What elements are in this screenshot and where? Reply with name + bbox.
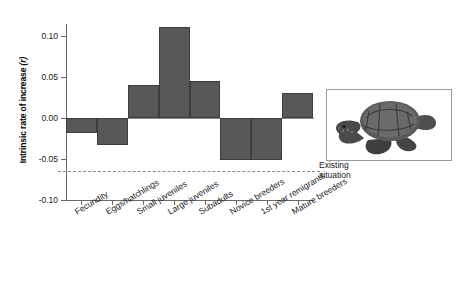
plot-area: 0.100.050.00-0.05-0.10 Existing situatio…: [66, 24, 313, 200]
y-tick-label: -0.05: [39, 154, 58, 164]
bar: [128, 85, 159, 118]
y-tick-label: 0.10: [41, 31, 58, 41]
y-tick-label: -0.10: [39, 195, 58, 205]
y-axis-line: [66, 24, 67, 200]
turtle-inset-box: [326, 89, 452, 161]
bar: [282, 93, 313, 118]
y-tick-label: 0.00: [41, 113, 58, 123]
existing-situation-label-line1: Existing: [319, 160, 351, 170]
y-tick: [61, 200, 66, 201]
bar: [190, 81, 221, 118]
bar: [66, 118, 97, 133]
sea-turtle-icon: [327, 90, 449, 158]
y-tick: [61, 36, 66, 37]
y-tick-label: 0.05: [41, 72, 58, 82]
figure-panel: Intrinsic rate of increase (r) 0.100.050…: [0, 0, 458, 286]
y-tick: [61, 159, 66, 160]
y-axis-title-symbol: (r): [18, 57, 28, 66]
y-axis-title-text: Intrinsic rate of increase: [18, 68, 28, 164]
bar: [251, 118, 282, 160]
y-tick: [61, 77, 66, 78]
bar: [97, 118, 128, 145]
existing-situation-line: [58, 171, 320, 172]
x-tick-label: Fecundity: [73, 189, 110, 217]
bar: [159, 27, 190, 118]
bar: [220, 118, 251, 160]
y-axis-title: Intrinsic rate of increase (r): [18, 35, 28, 185]
